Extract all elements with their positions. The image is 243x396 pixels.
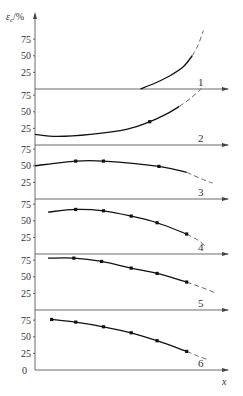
panel-1: 2550751 [21,30,229,91]
panel-5: 2550755 [21,255,229,312]
data-point-marker [148,120,151,123]
data-point-marker [185,280,188,283]
data-point-marker [50,318,53,321]
y-tick-label: 50 [21,271,31,282]
y-tick-label: 75 [21,315,31,326]
y-tick-label: 25 [21,232,31,243]
curve-solid [52,319,187,351]
data-point-marker [102,159,105,162]
y-tick-label: 50 [21,331,31,342]
x-axis-arrow-icon [222,252,229,256]
y-tick-label: 75 [21,34,31,45]
panel-number-label: 2 [198,132,204,144]
data-point-marker [185,350,188,353]
curve-solid [35,106,179,136]
panel-number-label: 4 [198,241,204,253]
y-tick-label: 25 [21,123,31,134]
data-point-marker [74,208,77,211]
x-axis-arrow-icon [222,308,229,312]
curve-extrapolated [187,172,213,183]
data-point-marker [72,257,75,260]
data-point-marker [130,214,133,217]
x-axis-arrow-icon [222,368,229,372]
y-tick-label: 25 [21,177,31,188]
panel-number-label: 6 [198,357,204,369]
panel-4: 2550754 [21,199,229,256]
x-axis-arrow-icon [222,197,229,201]
y-tick-label: 75 [21,255,31,266]
y-tick-label: 50 [21,50,31,61]
curve-extrapolated [187,282,217,293]
data-point-marker [157,165,160,168]
panel-3: 2550753 [21,144,229,201]
x-axis-arrow-icon [222,143,229,147]
curve-solid [140,56,192,89]
data-point-marker [102,325,105,328]
panel-number-label: 5 [198,297,204,309]
data-point-marker [102,209,105,212]
data-point-marker [130,267,133,270]
curve-solid [48,258,187,282]
curve-solid [35,160,187,172]
y-tick-label: 75 [21,199,31,210]
panel-2: 2550752 [21,88,229,147]
y-tick-label: 25 [21,67,31,78]
x-axis-arrow-icon [222,87,229,91]
data-point-marker [130,331,133,334]
curve-solid [48,209,187,234]
data-point-marker [156,221,159,224]
y-tick-label: 75 [21,144,31,155]
data-point-marker [156,339,159,342]
data-point-marker [100,260,103,263]
y-tick-label: 25 [21,288,31,299]
data-point-marker [156,272,159,275]
origin-label: 0 [22,365,27,376]
y-tick-label: 50 [21,160,31,171]
data-point-marker [185,232,188,235]
data-point-marker [74,159,77,162]
x-axis-title: x [221,376,227,387]
svg-text:εc/%: εc/% [6,11,24,24]
data-point-marker [74,321,77,324]
panel-number-label: 3 [198,186,204,198]
multi-panel-line-chart: εc/% 25507512550752255075325507542550755… [0,0,243,396]
y-tick-label: 50 [21,106,31,117]
y-axis-title: εc/% [6,11,24,24]
curve-extrapolated [192,30,203,55]
curve-extrapolated [179,88,201,106]
y-tick-label: 25 [21,348,31,359]
panel-number-label: 1 [198,76,204,88]
panel-6: 2550756 [21,315,229,372]
y-tick-label: 75 [21,90,31,101]
y-tick-label: 50 [21,215,31,226]
chart-panels: 2550751255075225507532550754255075525507… [21,12,229,372]
y-axis-arrow-icon [33,12,37,19]
curve-extrapolated [187,351,207,359]
